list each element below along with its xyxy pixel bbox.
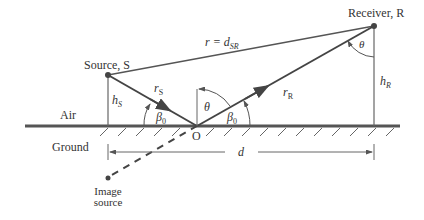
rr-label: rR <box>283 85 294 101</box>
beta-right-label: β0 <box>226 110 237 126</box>
ground-label: Ground <box>52 140 89 154</box>
hr-label: hR <box>380 74 391 90</box>
source-point <box>105 72 111 78</box>
image-source-point <box>106 176 111 181</box>
hs-label: hS <box>112 93 122 109</box>
air-label: Air <box>60 108 76 122</box>
image-source-path <box>110 126 197 176</box>
direct-path-line <box>108 26 374 75</box>
diagram-canvas: Source, S Receiver, R r = dSR rS rR hS h… <box>0 0 424 220</box>
receiver-label: Receiver, R <box>348 6 404 20</box>
beta-arc-left <box>144 104 150 126</box>
receiver-point <box>371 23 377 29</box>
image-source-label-line2: source <box>94 196 123 208</box>
reflected-ray-arrow <box>245 86 268 99</box>
beta-left-label: β0 <box>155 110 166 126</box>
reflection-point-label: O <box>192 129 201 143</box>
ground-hatching <box>100 128 394 136</box>
distance-label: d <box>238 145 245 159</box>
source-label: Source, S <box>84 58 130 72</box>
incident-ray-arrow <box>150 99 170 111</box>
theta-r-label: θ <box>359 38 365 50</box>
theta-o-label: θ <box>204 100 210 114</box>
rs-label: rS <box>154 81 163 97</box>
direct-path-label: r = dSR <box>205 35 239 51</box>
beta-arc-right <box>244 101 250 126</box>
